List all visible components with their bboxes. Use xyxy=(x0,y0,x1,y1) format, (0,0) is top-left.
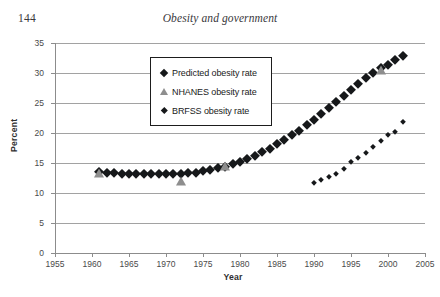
x-tick xyxy=(425,253,426,257)
x-tick-label: 1975 xyxy=(194,259,213,269)
data-point xyxy=(324,103,334,113)
x-axis-title: Year xyxy=(13,272,440,282)
data-point xyxy=(176,177,186,186)
y-tick-label: 35 xyxy=(35,38,44,48)
y-tick-label: 20 xyxy=(35,128,44,138)
gridline xyxy=(56,43,425,44)
y-tick: 30 xyxy=(51,73,55,74)
data-point xyxy=(376,66,386,75)
gridline xyxy=(56,133,425,134)
y-tick: 35 xyxy=(51,43,55,44)
chart-legend: Predicted obesity rate NHANES obesity ra… xyxy=(150,57,272,126)
x-tick xyxy=(388,253,389,257)
x-tick-label: 1995 xyxy=(342,259,361,269)
x-tick xyxy=(314,253,315,257)
legend-item-brfss: BRFSS obesity rate xyxy=(151,101,271,120)
x-tick-label: 1980 xyxy=(231,259,250,269)
data-point xyxy=(220,162,230,171)
x-tick-label: 1990 xyxy=(305,259,324,269)
data-point xyxy=(339,91,349,101)
x-tick xyxy=(92,253,93,257)
obesity-rate-chart: Percent Year 05101520253035 195519601965… xyxy=(0,32,440,297)
x-tick xyxy=(203,253,204,257)
data-point xyxy=(318,177,324,183)
plot-area: 05101520253035 1955196019651970197519801… xyxy=(55,43,425,253)
data-point xyxy=(363,150,369,156)
y-tick: 25 xyxy=(51,103,55,104)
x-tick-label: 1985 xyxy=(268,259,287,269)
data-point xyxy=(355,155,361,161)
triangle-icon xyxy=(158,88,170,95)
x-tick-label: 2005 xyxy=(416,259,435,269)
y-tick-label: 30 xyxy=(35,68,44,78)
legend-item-predicted: Predicted obesity rate xyxy=(151,63,271,82)
gridline xyxy=(56,223,425,224)
x-tick-label: 2000 xyxy=(379,259,398,269)
data-point xyxy=(341,166,347,172)
y-tick-label: 0 xyxy=(39,248,44,258)
y-tick: 20 xyxy=(51,133,55,134)
y-tick-label: 15 xyxy=(35,158,44,168)
x-tick xyxy=(55,253,56,257)
y-tick-label: 5 xyxy=(39,218,44,228)
legend-label: NHANES obesity rate xyxy=(172,87,257,97)
x-tick xyxy=(129,253,130,257)
x-tick-label: 1965 xyxy=(120,259,139,269)
y-tick: 15 xyxy=(51,163,55,164)
x-tick xyxy=(277,253,278,257)
diamond-large-icon xyxy=(158,70,170,76)
book-page: 144 Obesity and government Percent Year … xyxy=(0,0,440,297)
x-tick xyxy=(166,253,167,257)
legend-label: BRFSS obesity rate xyxy=(172,106,249,116)
x-tick xyxy=(351,253,352,257)
y-axis-title: Percent xyxy=(9,119,19,152)
y-tick: 10 xyxy=(51,193,55,194)
data-point xyxy=(333,171,339,177)
data-point xyxy=(370,144,376,150)
running-title: Obesity and government xyxy=(0,12,440,24)
legend-item-nhanes: NHANES obesity rate xyxy=(151,82,271,101)
y-tick-label: 25 xyxy=(35,98,44,108)
data-point xyxy=(326,174,332,180)
data-point xyxy=(400,119,406,125)
x-tick-label: 1970 xyxy=(157,259,176,269)
diamond-small-icon xyxy=(158,108,170,113)
data-point xyxy=(311,180,317,186)
data-point xyxy=(378,138,384,144)
x-tick-label: 1960 xyxy=(83,259,102,269)
data-point xyxy=(94,168,104,177)
data-point xyxy=(385,132,391,138)
x-tick-label: 1955 xyxy=(46,259,65,269)
x-tick xyxy=(240,253,241,257)
y-tick: 5 xyxy=(51,223,55,224)
y-tick-label: 10 xyxy=(35,188,44,198)
gridline xyxy=(56,193,425,194)
legend-label: Predicted obesity rate xyxy=(172,68,257,78)
